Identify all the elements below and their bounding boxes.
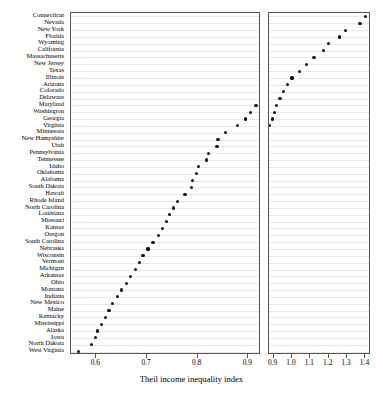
gridline [71,16,259,17]
gridline [71,51,259,52]
gridline [71,215,259,216]
data-point [207,152,210,155]
gridline [71,331,259,332]
data-point [268,124,271,127]
gridline [269,242,369,243]
gridline [71,256,259,257]
data-point [191,179,194,182]
data-point [90,343,93,346]
x-axis-tick-label: 0.9 [235,358,259,367]
data-point [168,213,171,216]
gridline [269,297,369,298]
gridline [269,222,369,223]
gridline [71,119,259,120]
data-point [151,241,154,244]
gridline [269,235,369,236]
x-axis-tick-label: 0.6 [83,358,107,367]
data-point [254,104,257,107]
gridline [71,99,259,100]
gridline [269,311,369,312]
data-point [282,90,285,93]
gridline [269,290,369,291]
gridline [71,283,259,284]
data-point [215,145,218,148]
gridline [269,57,369,58]
data-point [273,111,276,114]
gridline [71,352,259,353]
gridline [71,317,259,318]
gridline [269,105,369,106]
data-point [249,111,252,114]
data-point [190,186,193,189]
data-point [290,76,293,79]
gridline [269,37,369,38]
gridline [71,78,259,79]
gridline [71,105,259,106]
gridline [269,304,369,305]
data-point [104,316,107,319]
gridline [269,153,369,154]
gridline [71,126,259,127]
data-point [224,131,227,134]
gridline [71,338,259,339]
gridline [71,311,259,312]
right-panel [268,12,370,354]
gridline [269,181,369,182]
dot-plot-figure: ConnecticutNevadaNew YorkFloridaWyomingC… [0,0,383,406]
data-point [138,261,141,264]
gridline [71,276,259,277]
x-axis-tick-label: 1.4 [352,358,376,367]
gridline [71,112,259,113]
gridline [71,23,259,24]
gridline [71,167,259,168]
data-point [157,234,160,237]
data-point [111,302,114,305]
gridline [269,23,369,24]
gridline [269,78,369,79]
data-point [205,158,208,161]
gridline [71,270,259,271]
x-axis-tick-label: 0.7 [134,358,158,367]
gridline [71,92,259,93]
gridline [71,71,259,72]
data-point [327,42,330,45]
gridline [71,235,259,236]
data-point [183,193,186,196]
gridline [269,317,369,318]
gridline [269,112,369,113]
gridline [269,146,369,147]
data-point [96,329,99,332]
gridline [71,201,259,202]
gridline [71,37,259,38]
data-point [305,63,308,66]
data-point [338,35,341,38]
gridline [269,187,369,188]
gridline [71,64,259,65]
gridline [71,44,259,45]
gridline [71,57,259,58]
data-point [278,97,281,100]
gridline [71,85,259,86]
gridline [71,297,259,298]
x-axis-title: Theil income inequality index [0,374,383,384]
gridline [269,16,369,17]
gridline [269,263,369,264]
data-point [344,29,347,32]
data-point [322,49,325,52]
gridline [269,71,369,72]
data-point [216,138,219,141]
gridline [269,283,369,284]
data-point [116,295,119,298]
gridline [71,187,259,188]
gridline [71,304,259,305]
data-point [271,117,274,120]
data-point [77,350,80,353]
gridline [71,290,259,291]
gridline [269,208,369,209]
gridline [269,194,369,195]
gridline [269,215,369,216]
gridline [269,51,369,52]
gridline [71,208,259,209]
data-point [197,165,200,168]
gridline [71,133,259,134]
